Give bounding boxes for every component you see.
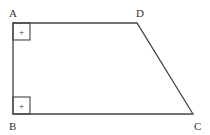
- right-angle-marker-a: +: [13, 23, 30, 40]
- vertex-label-b: B: [9, 120, 16, 132]
- marker-symbol-b: +: [19, 101, 24, 111]
- marker-symbol-a: +: [19, 27, 24, 37]
- trapezoid-diagram: + + A D C B: [0, 0, 210, 135]
- vertex-label-a: A: [9, 7, 17, 19]
- right-angle-marker-b: +: [13, 97, 30, 114]
- vertex-label-c: C: [194, 120, 201, 132]
- vertex-label-d: D: [136, 7, 144, 19]
- trapezoid-abcd: [13, 23, 193, 114]
